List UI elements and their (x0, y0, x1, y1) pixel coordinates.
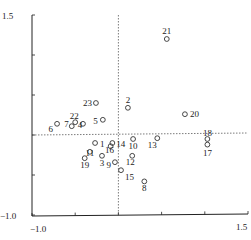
axes: 1.5−1.0−1.01.5 (0, 11, 248, 234)
reference-lines (32, 15, 248, 215)
data-point: 6 (49, 121, 60, 133)
point-marker-circle (100, 117, 105, 122)
point-marker-circle (69, 124, 74, 129)
data-point: 21 (162, 26, 171, 41)
x-tick-label-left: −1.0 (30, 224, 47, 234)
data-point: 3 (100, 153, 105, 167)
point-label: 7 (64, 119, 69, 129)
point-marker-circle (126, 105, 131, 110)
point-label: 13 (148, 140, 158, 150)
point-label: 6 (49, 124, 54, 134)
point-label: 8 (142, 183, 147, 193)
point-label: 21 (162, 26, 171, 36)
point-label: 22 (70, 111, 79, 121)
point-label: 2 (126, 95, 131, 105)
data-point: 18 (203, 128, 213, 141)
data-point: 22 (70, 111, 79, 124)
data-point: 11 (86, 148, 95, 158)
data-point: 17 (203, 142, 213, 157)
data-point: 15 (119, 168, 135, 182)
point-label: 16 (105, 145, 115, 155)
point-label: 18 (203, 128, 213, 138)
point-marker-circle (183, 112, 188, 117)
point-marker-circle (94, 101, 99, 106)
point-label: 15 (125, 172, 135, 182)
data-points: 1234567891011121314151617181920212223 (49, 26, 213, 193)
data-point: 5 (93, 116, 105, 126)
point-label: 12 (126, 157, 135, 167)
point-label: 20 (190, 109, 200, 119)
point-marker-circle (55, 121, 60, 126)
data-point: 2 (126, 95, 131, 110)
x-axis-line (32, 214, 248, 216)
data-point: 1 (93, 139, 105, 149)
horizontal-zero-line (32, 133, 248, 135)
data-point: 20 (183, 109, 200, 119)
data-point: 19 (80, 156, 90, 170)
y-tick-label-top: 1.5 (2, 11, 14, 21)
point-label: 14 (116, 139, 126, 149)
scatter-chart: 1.5−1.0−1.01.5 1234567891011121314151617… (0, 0, 251, 240)
point-label: 19 (80, 160, 90, 170)
point-label: 3 (100, 158, 105, 168)
data-point: 9 (106, 160, 117, 170)
point-label: 1 (100, 139, 105, 149)
point-marker-circle (113, 160, 118, 165)
data-point: 13 (148, 136, 160, 150)
point-label: 4 (78, 120, 83, 130)
point-label: 17 (203, 148, 213, 158)
point-label: 10 (129, 141, 139, 151)
point-marker-circle (164, 37, 169, 42)
point-marker-circle (93, 141, 98, 146)
point-label: 11 (86, 148, 95, 158)
point-label: 23 (83, 98, 93, 108)
point-marker-circle (205, 142, 210, 147)
data-point: 8 (142, 179, 147, 193)
x-tick-label-right: 1.5 (236, 222, 248, 232)
y-tick-label-bottom: −1.0 (0, 211, 17, 221)
data-point: 12 (126, 153, 135, 166)
point-label: 9 (106, 160, 111, 170)
data-point: 4 (78, 120, 86, 130)
data-point: 23 (83, 98, 98, 108)
point-label: 5 (93, 116, 98, 126)
point-marker-circle (119, 168, 124, 173)
data-point: 16 (105, 144, 115, 155)
data-point: 10 (129, 137, 139, 151)
